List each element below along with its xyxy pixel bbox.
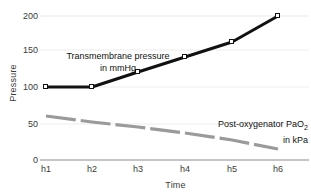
annotation-pao2-text: Post-oxygenator PaO <box>218 119 304 129</box>
x-tick-label-h5: h5 <box>217 165 247 174</box>
x-tick-label-h2: h2 <box>77 165 107 174</box>
annotation-post-oxygenator-pao2-line2: in kPa <box>196 134 308 146</box>
annotation-post-oxygenator-pao2-line1: Post-oxygenator PaO2 <box>196 118 308 134</box>
x-tick-label-h3: h3 <box>123 165 153 174</box>
x-tick-label-h4: h4 <box>170 165 200 174</box>
x-tick-label-h1: h1 <box>31 165 61 174</box>
x-axis-title: Time <box>40 180 311 190</box>
chart-container: Pressure 200 150 100 50 0 <box>0 0 311 195</box>
annotation-transmembrane-pressure: Transmembrane pressure in mmHg <box>56 50 180 74</box>
x-tick-label-h6: h6 <box>263 165 293 174</box>
annotation-post-oxygenator-pao2: Post-oxygenator PaO2 in kPa <box>196 118 308 146</box>
annotation-transmembrane-pressure-line2: in mmHg <box>56 62 180 74</box>
annotation-transmembrane-pressure-line1: Transmembrane pressure <box>56 50 180 62</box>
annotation-pao2-subscript: 2 <box>304 124 308 131</box>
